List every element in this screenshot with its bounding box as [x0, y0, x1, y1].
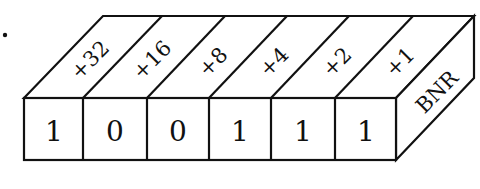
- bit-value: 0: [169, 115, 187, 148]
- bit-value: 1: [45, 115, 63, 148]
- bit-value: 1: [231, 115, 249, 148]
- binary-register-diagram: +32 +16 +8 +4 +2 +1 1 0 0 1 1 1 BNR: [0, 0, 480, 189]
- bit-value: 0: [106, 115, 124, 148]
- bit-value: 1: [357, 115, 375, 148]
- marker-dot: [3, 33, 7, 37]
- bit-value: 1: [294, 115, 312, 148]
